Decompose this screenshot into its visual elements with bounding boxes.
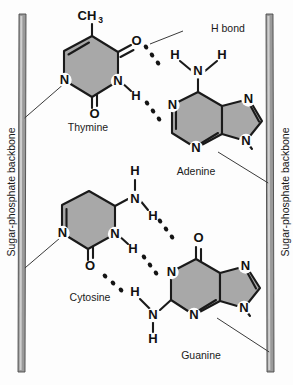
adenine-atom-h-right: H xyxy=(217,47,226,62)
guanine-atom-h-down: H xyxy=(148,331,157,346)
cytosine-atom-h-amino: H xyxy=(148,208,157,223)
cytosine-c4n-bond xyxy=(115,199,128,206)
hydrogen-bond-cg-upper xyxy=(157,218,175,241)
guanine-atom-n9: N xyxy=(239,300,248,315)
adenine-atom-n9: N xyxy=(241,133,250,148)
hydrogen-bond-cg-middle xyxy=(141,254,159,277)
dna-base-pairing-figure: N N O O H CH 3 Thymine N N N N N xyxy=(0,0,293,385)
cytosine-atom-n3: N xyxy=(110,226,119,241)
adenine-atom-n6: N xyxy=(193,63,202,78)
backbone-label-right: Sugar-phosphate backbone xyxy=(279,127,291,256)
dna-diagram-svg: N N O O H CH 3 Thymine N N N N N xyxy=(0,0,293,385)
sugar-phosphate-backbone-left xyxy=(18,14,26,372)
backbone-label-left: Sugar-phosphate backbone xyxy=(5,127,17,256)
guanine-molecule: N N N N N O H H Guanine xyxy=(130,230,260,360)
cytosine-molecule: N N N H H O H Cytosine xyxy=(55,163,157,302)
guanine-atom-n3: N xyxy=(189,307,198,322)
hydrogen-bond-ta-lower xyxy=(144,100,162,123)
thymine-molecule: N N O O H CH 3 Thymine xyxy=(57,8,141,132)
h-bond-leader-line xyxy=(150,31,183,44)
cytosine-atom-n4: N xyxy=(130,191,139,206)
guanine-atom-o6: O xyxy=(193,230,203,245)
cytosine-name-label: Cytosine xyxy=(70,291,111,303)
cytosine-atom-n1: N xyxy=(58,225,67,240)
h-bond-label: H bond xyxy=(211,22,245,34)
guanine-atom-n7: N xyxy=(241,258,250,273)
guanine-atom-n2: N xyxy=(148,307,157,322)
adenine-atom-h-left: H xyxy=(170,47,179,62)
cytosine-atom-h3: H xyxy=(128,241,137,256)
backbone-connector-adenine xyxy=(218,152,268,183)
backbone-connector-guanine xyxy=(217,318,269,352)
adenine-atom-n1: N xyxy=(168,97,177,112)
adenine-molecule: N N N N N H H Adenine xyxy=(165,47,262,176)
adenine-nh-bond-right xyxy=(205,61,217,71)
thymine-name-label: Thymine xyxy=(68,121,108,133)
guanine-name-label: Guanine xyxy=(181,349,221,361)
sugar-phosphate-backbone-right xyxy=(266,14,274,372)
guanine-atom-n1: N xyxy=(167,264,176,279)
adenine-name-label: Adenine xyxy=(177,165,216,177)
cytosine-atom-h-up: H xyxy=(130,163,139,178)
thymine-atom-n3: N xyxy=(113,73,122,88)
hydrogen-bond-ta-upper xyxy=(143,44,161,67)
thymine-atom-n1: N xyxy=(60,72,69,87)
thymine-ring xyxy=(64,36,118,97)
thymine-methyl-subscript: 3 xyxy=(98,15,103,25)
thymine-atom-o2: O xyxy=(89,106,99,121)
guanine-atom-h-up: H xyxy=(130,284,139,299)
thymine-atom-o4: O xyxy=(131,33,141,48)
adenine-atom-n7: N xyxy=(244,91,253,106)
cytosine-atom-o2: O xyxy=(85,258,95,273)
adenine-atom-n3: N xyxy=(191,140,200,155)
cytosine-ring xyxy=(62,191,115,249)
thymine-atom-h3: H xyxy=(131,88,140,103)
adenine-nh-bond-left xyxy=(180,61,192,71)
thymine-methyl-label: CH xyxy=(78,8,97,23)
